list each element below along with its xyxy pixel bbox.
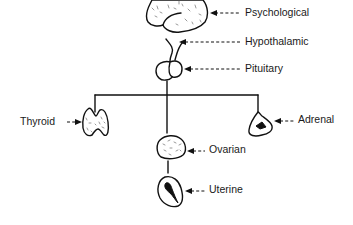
label-psychological: Psychological: [245, 6, 309, 18]
hypothalamic-arrow: [179, 39, 241, 45]
ovary-icon: [157, 136, 185, 159]
label-uterine: Uterine: [209, 183, 243, 195]
label-hypothalamic: Hypothalamic: [245, 35, 309, 47]
uterus-icon: [158, 177, 183, 207]
adrenal-gland-icon: [249, 112, 272, 136]
pituitary-arrow: [184, 66, 241, 72]
label-adrenal: Adrenal: [298, 113, 334, 125]
connector-lines: [95, 81, 258, 173]
label-pituitary: Pituitary: [245, 62, 283, 74]
adrenal-arrow: [274, 118, 294, 124]
label-ovarian: Ovarian: [209, 143, 246, 155]
brain-icon: [147, 0, 208, 32]
psychological-arrow: [210, 10, 241, 16]
ovarian-arrow: [187, 148, 205, 154]
label-thyroid: Thyroid: [20, 115, 55, 127]
pituitary-gland-icon: [156, 61, 182, 80]
uterine-arrow: [185, 188, 205, 194]
endocrine-factor-diagram: Psychological Hypothalamic Pituitary Thy…: [0, 0, 353, 225]
thyroid-arrow: [67, 119, 82, 125]
